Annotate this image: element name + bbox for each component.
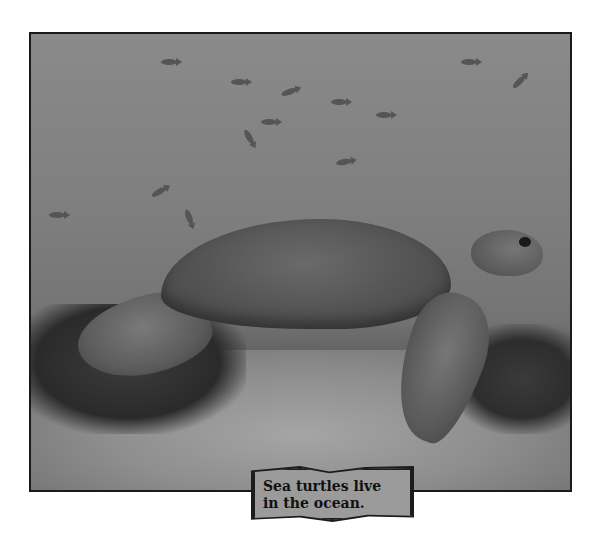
fish <box>231 79 247 85</box>
fish <box>461 59 477 65</box>
fish <box>183 208 194 225</box>
fish <box>336 158 353 167</box>
caption-text: Sea turtles live in the ocean. <box>263 478 408 512</box>
fish <box>49 212 65 218</box>
sea-turtle-photo <box>29 32 572 492</box>
turtle-shell <box>161 219 451 329</box>
fish <box>376 112 392 118</box>
fish <box>161 59 177 65</box>
turtle-eye <box>519 237 531 247</box>
fish <box>151 185 168 198</box>
turtle-head <box>471 230 543 276</box>
fish <box>261 119 277 125</box>
fish <box>331 99 347 105</box>
fish <box>242 129 255 146</box>
fish <box>511 74 527 90</box>
fish <box>280 86 297 97</box>
caption-line-1: Sea turtles live <box>263 478 408 495</box>
caption-line-2: in the ocean. <box>263 495 408 512</box>
